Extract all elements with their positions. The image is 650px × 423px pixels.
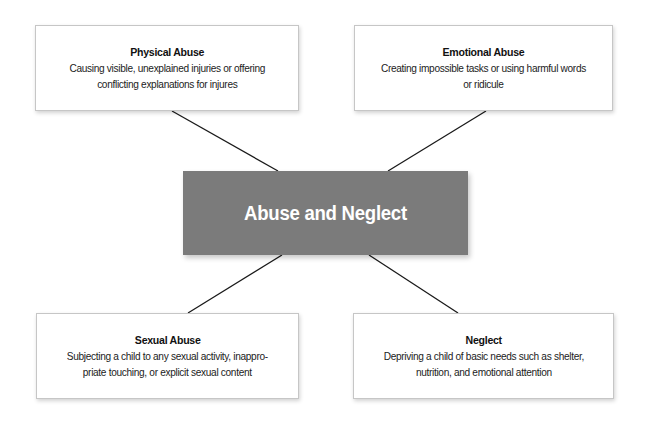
node-emotional-abuse: Emotional Abuse Creating impossible task… bbox=[354, 25, 613, 111]
center-title: Abuse and Neglect bbox=[244, 202, 407, 225]
node-description-text: Creating impossible tasks or using harmf… bbox=[381, 62, 586, 90]
node-sexual-abuse: Sexual Abuse Subjecting a child to any s… bbox=[36, 313, 299, 399]
node-description-text: Causing visible, unexplained injuries or… bbox=[69, 62, 265, 90]
connector-sexual bbox=[188, 255, 282, 313]
node-neglect: Neglect Depriving a child of basic needs… bbox=[353, 313, 614, 399]
node-description: Creating impossible tasks or using harmf… bbox=[381, 60, 586, 92]
node-title: Neglect bbox=[465, 333, 501, 348]
node-title: Physical Abuse bbox=[130, 45, 204, 60]
node-description: Subjecting a child to any sexual activit… bbox=[67, 348, 268, 380]
node-description-text: Subjecting a child to any sexual activit… bbox=[67, 350, 268, 378]
connector-emotional bbox=[388, 111, 486, 171]
node-description: Depriving a child of basic needs such as… bbox=[383, 348, 583, 380]
node-description: Causing visible, unexplained injuries or… bbox=[69, 60, 265, 92]
connector-physical bbox=[172, 111, 278, 171]
node-physical-abuse: Physical Abuse Causing visible, unexplai… bbox=[35, 25, 299, 111]
node-title: Sexual Abuse bbox=[135, 333, 201, 348]
abuse-neglect-diagram: Physical Abuse Causing visible, unexplai… bbox=[0, 0, 650, 423]
connector-neglect bbox=[369, 255, 458, 313]
node-description-text: Depriving a child of basic needs such as… bbox=[383, 350, 583, 378]
node-title: Emotional Abuse bbox=[443, 45, 525, 60]
center-node: Abuse and Neglect bbox=[183, 171, 468, 255]
